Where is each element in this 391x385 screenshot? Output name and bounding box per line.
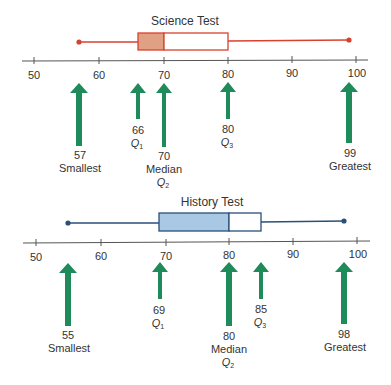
science-title: Science Test bbox=[151, 14, 219, 28]
history-greatest-value: 98 bbox=[338, 328, 350, 340]
tick-label: 100 bbox=[349, 248, 367, 260]
science-q1-value: 66 bbox=[132, 124, 144, 136]
history-min-dot bbox=[65, 220, 70, 225]
science-right-whisker bbox=[228, 40, 349, 41]
science-q3-value: 80 bbox=[222, 123, 234, 135]
science-arrows bbox=[70, 82, 358, 147]
science-greatest-value: 99 bbox=[344, 147, 356, 159]
history-median-label: Median bbox=[211, 343, 247, 355]
tick-label: 60 bbox=[95, 250, 107, 262]
tick-label: 80 bbox=[222, 68, 234, 80]
history-q1-label: Q1 bbox=[152, 317, 165, 330]
science-q3-label: Q3 bbox=[221, 136, 234, 149]
history-right-whisker bbox=[261, 221, 344, 222]
science-greatest-label: Greatest bbox=[329, 160, 371, 172]
history-box-upper bbox=[229, 213, 261, 231]
science-smallest-value: 57 bbox=[74, 149, 86, 161]
tick-label: 80 bbox=[223, 249, 235, 261]
arrow-up-icon bbox=[335, 262, 353, 324]
arrow-up-icon bbox=[59, 263, 77, 326]
science-smallest-label: Smallest bbox=[59, 162, 101, 174]
science-max-dot bbox=[346, 37, 351, 42]
arrow-up-icon bbox=[156, 83, 172, 147]
history-q3-value: 85 bbox=[255, 303, 267, 315]
arrow-up-icon bbox=[70, 83, 88, 146]
science-tick-labels: 50 60 70 80 90 100 bbox=[28, 67, 366, 81]
tick-label: 50 bbox=[28, 69, 40, 81]
tick-label: 90 bbox=[286, 67, 298, 79]
arrow-up-icon bbox=[220, 262, 238, 326]
history-tick-labels: 50 60 70 80 90 100 bbox=[30, 248, 367, 263]
science-median-value: 70 bbox=[158, 150, 170, 162]
history-q3-label: Q3 bbox=[254, 316, 267, 329]
science-box-upper bbox=[164, 33, 228, 50]
science-box-plot: Science Test 50 60 70 80 90 100 bbox=[22, 14, 371, 189]
history-greatest-label: Greatest bbox=[324, 341, 366, 353]
arrow-up-icon bbox=[340, 82, 358, 143]
science-axis bbox=[22, 60, 368, 61]
tick-label: 70 bbox=[160, 250, 172, 262]
tick-label: 90 bbox=[287, 248, 299, 260]
tick-label: 60 bbox=[93, 69, 105, 81]
history-q2-label: Q2 bbox=[222, 356, 235, 369]
arrow-up-icon bbox=[253, 262, 269, 299]
tick-label: 100 bbox=[348, 67, 366, 79]
science-min-dot bbox=[76, 39, 81, 44]
history-box-plot: History Test 50 60 70 80 90 100 bbox=[23, 195, 370, 369]
science-q1-label: Q1 bbox=[131, 137, 144, 150]
tick-label: 70 bbox=[158, 69, 170, 81]
history-max-dot bbox=[341, 218, 346, 223]
arrow-up-icon bbox=[152, 262, 168, 299]
history-axis bbox=[23, 241, 370, 243]
history-smallest-label: Smallest bbox=[48, 342, 90, 354]
history-title: History Test bbox=[181, 195, 244, 209]
history-smallest-value: 55 bbox=[62, 329, 74, 341]
box-plot-diagram: Science Test 50 60 70 80 90 100 bbox=[0, 0, 391, 385]
science-box-lower bbox=[138, 33, 164, 50]
history-q1-value: 69 bbox=[153, 304, 165, 316]
science-median-label: Median bbox=[146, 163, 182, 175]
history-arrows bbox=[59, 262, 353, 326]
arrow-up-icon bbox=[130, 83, 146, 119]
science-q2-label: Q2 bbox=[157, 176, 170, 189]
arrow-up-icon bbox=[220, 82, 236, 119]
tick-label: 50 bbox=[30, 251, 42, 263]
history-median-value: 80 bbox=[223, 330, 235, 342]
history-box-lower bbox=[159, 213, 229, 231]
